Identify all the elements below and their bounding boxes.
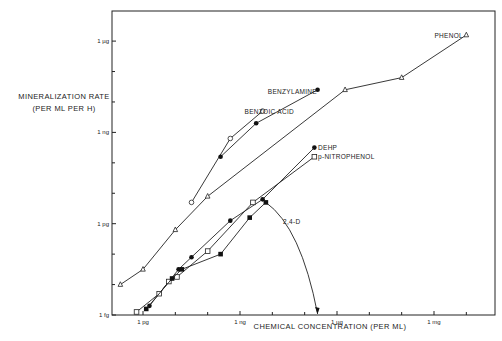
- x-axis-label: CHEMICAL CONCENTRATION (PER ML): [200, 322, 460, 331]
- open-square-marker-icon: [205, 249, 210, 254]
- filled-square-marker-icon: [264, 200, 269, 205]
- triangle-marker-icon: [118, 282, 123, 287]
- label-dehp: DEHP: [318, 144, 337, 151]
- filled-square-marker-icon: [180, 267, 185, 272]
- triangle-marker-icon: [399, 75, 404, 80]
- filled-circle-marker-icon: [312, 145, 317, 150]
- triangle-marker-icon: [205, 194, 210, 199]
- y-tick-label: 1 fg: [99, 312, 109, 318]
- open-circle-marker-icon: [228, 136, 233, 141]
- series-line: [221, 90, 318, 157]
- y-axis-label: MINERALIZATION RATE (PER ML PER H): [4, 91, 124, 115]
- label-benzylamine: BENZYLAMINE: [268, 88, 318, 95]
- arrow-head-icon: [315, 307, 320, 314]
- open-square-marker-icon: [134, 310, 139, 315]
- label-p-nitrophenol: p-NITROPHENOL: [318, 153, 375, 161]
- filled-circle-marker-icon: [254, 121, 259, 126]
- filled-circle-marker-icon: [218, 154, 223, 159]
- filled-circle-marker-icon: [189, 255, 194, 260]
- filled-square-marker-icon: [218, 252, 223, 257]
- open-circle-marker-icon: [189, 200, 194, 205]
- open-square-marker-icon: [312, 154, 317, 159]
- label-phenol: PHENOL: [434, 32, 463, 39]
- series-line: [192, 111, 263, 202]
- label-benzoic-acid: BENZOIC ACID: [245, 108, 294, 115]
- x-tick-label: 1 pg: [137, 319, 149, 325]
- y-axis-label-line2: (PER ML PER H): [4, 103, 124, 115]
- label-2-4-d: 2,4-D: [283, 218, 300, 225]
- filled-square-marker-icon: [170, 276, 175, 281]
- filled-square-marker-icon: [247, 215, 252, 220]
- filled-square-marker-icon: [144, 307, 149, 312]
- y-axis-label-line1: MINERALIZATION RATE: [4, 91, 124, 103]
- series-line: [149, 148, 314, 306]
- open-square-marker-icon: [251, 200, 256, 205]
- y-tick-label: 1 pg: [97, 221, 109, 227]
- plot-frame: [112, 11, 495, 315]
- y-tick-label: 1 µg: [97, 38, 109, 44]
- triangle-marker-icon: [464, 32, 469, 37]
- filled-circle-marker-icon: [228, 218, 233, 223]
- y-tick-label: 1 ng: [97, 129, 109, 135]
- chart-area: 1 pg1 ng1 µg1 mg1 fg1 pg1 ng1 µgPHENOLBE…: [0, 0, 502, 341]
- series-line: [120, 35, 466, 285]
- log-log-plot: 1 pg1 ng1 µg1 mg1 fg1 pg1 ng1 µgPHENOLBE…: [0, 0, 502, 341]
